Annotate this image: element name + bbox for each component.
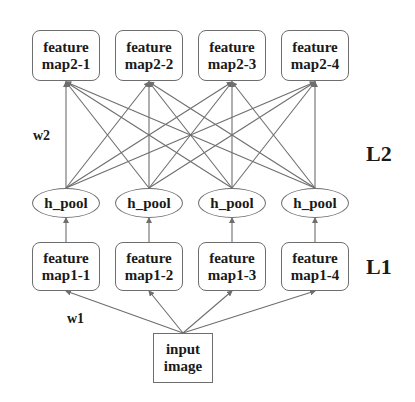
feature-map1-4-node: feature map1-4 bbox=[281, 242, 349, 291]
node-label-line2: map1-4 bbox=[291, 267, 339, 284]
layer-l2-label: L2 bbox=[366, 141, 392, 167]
cnn-architecture-diagram: feature map2-1 feature map2-2 feature ma… bbox=[0, 0, 415, 402]
node-label-line2: map2-4 bbox=[291, 56, 339, 73]
pool-label: h_pool bbox=[44, 195, 87, 212]
input-to-layer1-edges bbox=[66, 291, 315, 333]
node-label-line1: feature bbox=[209, 39, 255, 56]
w2-label: w2 bbox=[33, 128, 50, 144]
node-label-line1: feature bbox=[292, 39, 338, 56]
input-image-node: input image bbox=[153, 333, 213, 383]
feature-map1-2-node: feature map1-2 bbox=[115, 242, 183, 291]
node-label-line2: map1-2 bbox=[125, 267, 173, 284]
node-label-line1: input bbox=[166, 341, 200, 358]
node-label-line1: feature bbox=[209, 250, 255, 267]
node-label-line1: feature bbox=[43, 39, 89, 56]
feature-map2-1-node: feature map2-1 bbox=[32, 30, 100, 81]
feature-map2-2-node: feature map2-2 bbox=[115, 30, 183, 81]
pool-to-layer2-edges bbox=[66, 82, 315, 188]
w1-label: w1 bbox=[67, 311, 84, 327]
h-pool-node-2: h_pool bbox=[115, 188, 183, 218]
h-pool-node-1: h_pool bbox=[32, 188, 100, 218]
pool-label: h_pool bbox=[210, 195, 253, 212]
pool-label: h_pool bbox=[293, 195, 336, 212]
node-label-line2: map2-3 bbox=[208, 56, 256, 73]
node-label-line1: feature bbox=[43, 250, 89, 267]
layer-l1-label: L1 bbox=[366, 254, 392, 280]
feature-map1-3-node: feature map1-3 bbox=[198, 242, 266, 291]
node-label-line2: image bbox=[164, 358, 202, 375]
node-label-line1: feature bbox=[292, 250, 338, 267]
node-label-line2: map2-1 bbox=[42, 56, 90, 73]
node-label-line2: map2-2 bbox=[125, 56, 173, 73]
feature-map2-4-node: feature map2-4 bbox=[281, 30, 349, 81]
node-label-line1: feature bbox=[126, 39, 172, 56]
feature-map1-1-node: feature map1-1 bbox=[32, 242, 100, 291]
h-pool-node-3: h_pool bbox=[198, 188, 266, 218]
node-label-line1: feature bbox=[126, 250, 172, 267]
node-label-line2: map1-1 bbox=[42, 267, 90, 284]
h-pool-node-4: h_pool bbox=[281, 188, 349, 218]
pool-label: h_pool bbox=[127, 195, 170, 212]
layer1-to-pool-edges bbox=[66, 218, 315, 242]
feature-map2-3-node: feature map2-3 bbox=[198, 30, 266, 81]
node-label-line2: map1-3 bbox=[208, 267, 256, 284]
